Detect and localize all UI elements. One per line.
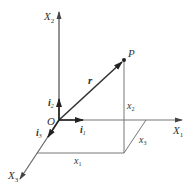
origin-label: O — [47, 115, 55, 127]
component-x3-label: x3 — [138, 134, 146, 146]
unit-vector-i2-label: i2 — [48, 97, 54, 109]
unit-vector-i1-label: i1 — [80, 124, 86, 136]
coordinate-diagram: X2 X1 X3 O P r i2 i1 i3 x2 x1 x3 — [0, 0, 193, 191]
point-p-dot — [122, 58, 126, 62]
vector-r-label: r — [88, 74, 93, 86]
point-p-label: P — [127, 47, 135, 59]
x2-axis-label: X2 — [43, 10, 55, 25]
unit-vector-i3-label: i3 — [36, 127, 42, 139]
component-x1-label: x1 — [73, 155, 81, 167]
x3-axis-label: X3 — [7, 169, 19, 184]
component-x2-label: x2 — [126, 100, 134, 112]
position-vector-r — [59, 62, 122, 120]
x1-axis-label: X1 — [172, 124, 184, 139]
